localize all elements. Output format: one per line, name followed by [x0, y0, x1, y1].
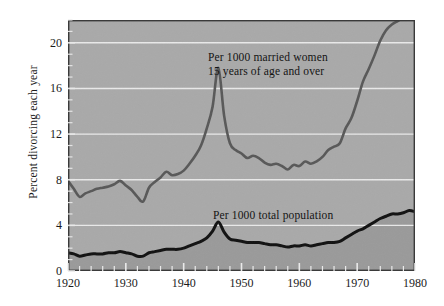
x-tick-label: 1960	[269, 276, 329, 291]
annotation-married-women-line2: 15 years of age and over	[208, 64, 324, 78]
y-tick-label: 8	[36, 174, 62, 186]
y-tick-label: 16	[36, 82, 62, 94]
annotation-married-women-line1: Per 1000 married women	[208, 50, 328, 64]
x-tick-label: 1930	[96, 276, 156, 291]
y-axis-tick-labels: 048121620	[34, 0, 62, 306]
y-tick-label: 20	[36, 37, 62, 49]
annotation-total-population: Per 1000 total population	[213, 208, 333, 222]
y-tick-label: 12	[36, 128, 62, 140]
x-tick-label: 1950	[212, 276, 272, 291]
x-tick-label: 1920	[38, 276, 98, 291]
divorce-rate-chart: Percent divorcing each year 048121620 19…	[0, 0, 444, 306]
x-tick-label: 1940	[154, 276, 214, 291]
y-tick-label: 4	[36, 219, 62, 231]
x-tick-label: 1970	[327, 276, 387, 291]
x-tick-label: 1980	[385, 276, 444, 291]
